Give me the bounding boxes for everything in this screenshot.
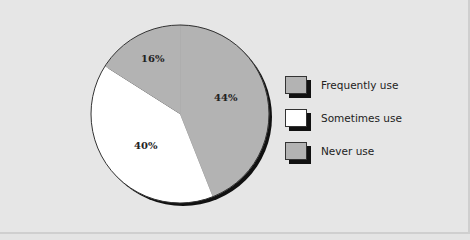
legend-item-never: Never use	[285, 134, 402, 167]
legend-item-sometimes: Sometimes use	[285, 101, 402, 134]
legend-item-frequently: Frequently use	[285, 68, 402, 101]
legend-label: Sometimes use	[321, 112, 402, 124]
legend-swatch-sometimes	[285, 109, 307, 127]
legend-label: Never use	[321, 145, 374, 157]
legend-label: Frequently use	[321, 79, 398, 91]
legend-swatch-never	[285, 142, 307, 160]
legend: Frequently use Sometimes use Never use	[285, 68, 402, 167]
slice-label-never: 16%	[141, 53, 164, 64]
legend-swatch-frequently	[285, 76, 307, 94]
slice-label-sometimes: 40%	[134, 140, 157, 151]
slice-label-frequently: 44%	[214, 92, 237, 103]
